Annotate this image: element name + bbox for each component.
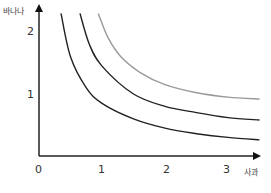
curves-group (61, 13, 260, 139)
x-tick-1: 1 (98, 163, 105, 176)
indifference-curve-2 (80, 13, 260, 120)
x-tick-0: 0 (35, 163, 42, 176)
x-tick-3: 3 (223, 163, 230, 176)
indifference-curve-chart: 바나나 2 1 0 1 2 3 사과 (0, 0, 271, 193)
indifference-curve-1 (61, 13, 260, 139)
y-axis-title: 바나나 (3, 6, 25, 16)
x-tick-2: 2 (163, 163, 170, 176)
y-tick-1: 1 (27, 88, 34, 101)
y-tick-2: 2 (27, 25, 34, 38)
x-axis-title: 사과 (244, 168, 259, 177)
